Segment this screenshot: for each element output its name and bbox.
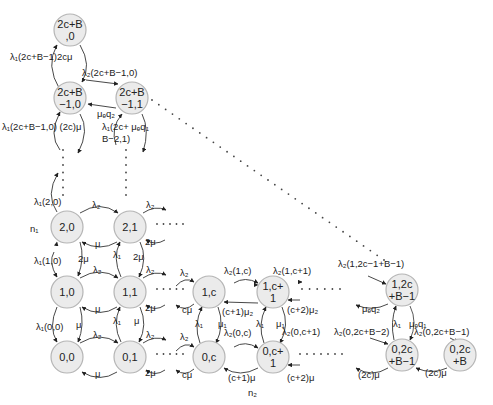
transition-rate-label: cμ xyxy=(182,304,192,315)
state-label: +B−1 xyxy=(389,290,415,302)
state-node: 0,1 xyxy=(114,341,146,373)
transition-rate-label: λ₂ xyxy=(146,199,155,210)
transition-rate-label: λ₂(0,2c+B−1) xyxy=(414,326,469,337)
transition-rate-label: λ₂ xyxy=(93,329,102,340)
state-label: 2,1 xyxy=(122,221,137,233)
transition-rate-label: λ₁ xyxy=(113,249,121,260)
transition-rate-label: λ₂ xyxy=(93,264,102,275)
state-label: 2,0 xyxy=(59,221,74,233)
transition-rate-label: λ₂(1,2c−1+B−1) xyxy=(338,258,404,269)
state-node: 1,1 xyxy=(114,276,146,308)
state-node: 2c+B,0 xyxy=(54,14,86,46)
transition-rate-label: (c+2)μ xyxy=(287,372,314,383)
transition-rate-label: B−2,1) xyxy=(102,133,130,144)
state-node: 0,2c+B xyxy=(444,339,476,371)
transition-rate-label: 2μ xyxy=(145,236,156,247)
state-label: 2c+B xyxy=(57,86,82,98)
state-label: 0,c+ xyxy=(262,345,283,357)
transition-rate-label: (c+2)μ₂ xyxy=(287,304,318,315)
transition-rate-label: λ₂ xyxy=(180,331,189,342)
state-label: 1,c xyxy=(202,286,217,298)
state-node: 0,2c+B−1 xyxy=(386,339,418,371)
transition-rate-label: λ₁(2c+ μₑq₁ xyxy=(102,121,149,132)
transition-rate-label: μ xyxy=(134,315,139,326)
transition-rate-label: λ₂(0,c+1) xyxy=(282,326,320,337)
transition-rate-label: λ₁ xyxy=(113,315,121,326)
transition-rate-label: cμ xyxy=(182,369,192,380)
transition-rate-label: n₁ xyxy=(30,223,39,234)
transition-rate-label: n₂ xyxy=(248,387,257,398)
state-node: 0,0 xyxy=(51,341,83,373)
transition-rate-label: λ₁(0,0) xyxy=(36,321,64,332)
transition-rate-label: μₑq₂ xyxy=(97,108,115,119)
transition-rate-label: (c+1)μ xyxy=(228,372,255,383)
transition-rate-label: μ xyxy=(76,319,81,330)
transition-rate-label: 2μ xyxy=(145,367,156,378)
transition-rate-label: (2c)μ xyxy=(358,369,380,380)
state-label: 1,c+ xyxy=(262,280,283,292)
state-label: 1,2c xyxy=(392,278,413,290)
state-label: −1,1 xyxy=(121,98,143,110)
state-node: 2,1 xyxy=(114,211,146,243)
state-label: 1 xyxy=(270,292,276,304)
transition-rate-label: λ₂(0,c) xyxy=(224,327,251,338)
transition-rate-label: λ₂(1,c) xyxy=(224,265,251,276)
transition-rate-label: (c+1)μ₂ xyxy=(222,306,253,317)
transition-rate-label: μ xyxy=(95,368,100,379)
state-label: 0,2c xyxy=(392,343,413,355)
transition-rate-label: λ₂(1,c+1) xyxy=(273,265,311,276)
state-node: 2c+B−1,0 xyxy=(54,82,86,114)
transition-rate-label: 2μ xyxy=(145,302,156,313)
state-node: 1,c xyxy=(193,276,225,308)
state-label: 1 xyxy=(270,357,276,369)
transition-rate-label: λ₁(2c+B−1,0) (2c)μ xyxy=(2,121,81,132)
state-label: 0,c xyxy=(202,351,217,363)
transition-rate-label: λ₂ xyxy=(92,199,101,210)
transition-rate-label: (2c)μ xyxy=(425,367,447,378)
transition-rate-label: λ₁(2,0) xyxy=(34,196,62,207)
state-label: +B xyxy=(453,355,467,367)
transition-rate-label: μ xyxy=(95,303,100,314)
state-label: 2c+B xyxy=(57,18,82,30)
state-label: 0,0 xyxy=(59,351,74,363)
transition-rate-label: λ₂ xyxy=(146,264,155,275)
state-node: 1,0 xyxy=(51,276,83,308)
transition-rate-label: λ₂(0,2c+B−2) xyxy=(334,326,389,337)
state-node: 2c+B−1,1 xyxy=(116,82,148,114)
state-label: 2c+B xyxy=(119,86,144,98)
state-label: 0,1 xyxy=(122,351,137,363)
transition-rate-label: 2μ xyxy=(133,251,144,262)
state-node: 1,c+1 xyxy=(257,276,289,308)
state-label: 1,1 xyxy=(122,286,137,298)
transition-rate-label: λ₁ xyxy=(393,318,401,329)
state-label: 1,0 xyxy=(59,286,74,298)
state-transition-diagram: 2c+B,02c+B−1,02c+B−1,12,02,11,01,11,c1,c… xyxy=(0,0,493,405)
state-node: 1,2c+B−1 xyxy=(386,274,418,306)
transition-rate-label: λ₁(2c+B−1)2cμ xyxy=(10,51,73,62)
state-node: 2,0 xyxy=(51,211,83,243)
state-label: −1,0 xyxy=(59,98,81,110)
transition-rate-label: μ xyxy=(95,238,100,249)
state-node: 0,c+1 xyxy=(257,341,289,373)
state-label: 0,2c xyxy=(450,343,471,355)
transition-rate-label: μₑq₂ xyxy=(362,303,380,314)
transition-rate-label: λ₂(2c+B−1,0) xyxy=(82,67,137,78)
state-node: 0,c xyxy=(193,341,225,373)
transition-rate-label: 2μ xyxy=(78,253,89,264)
transition-rate-label: λ₂ xyxy=(180,267,189,278)
state-label: +B−1 xyxy=(389,355,415,367)
transition-rate-label: λ₂ xyxy=(146,329,155,340)
state-label: ,0 xyxy=(65,30,74,42)
transition-rate-label: λ₁(1,0) xyxy=(34,255,62,266)
transition-rate-label: λ₁ xyxy=(256,318,264,329)
transition-rate-label: λ₁ xyxy=(195,318,203,329)
